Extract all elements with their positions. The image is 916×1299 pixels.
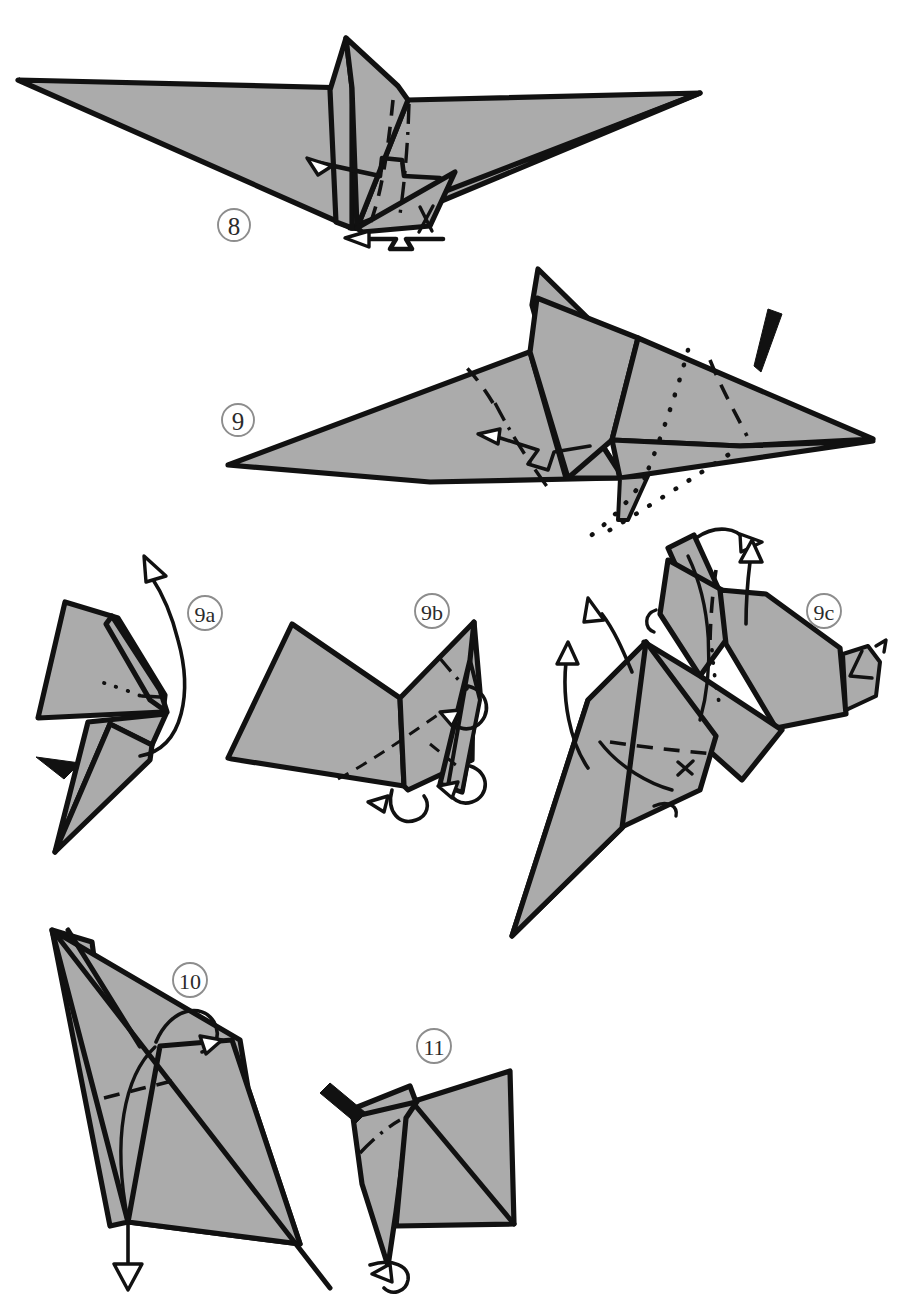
- step-11-label-text: 11: [423, 1035, 444, 1060]
- step-11-label: 11: [417, 1029, 451, 1063]
- origami-diagram-page: 8 9: [0, 0, 916, 1299]
- step-9a-crease-tick: [142, 696, 160, 697]
- step-9a-label: 9a: [188, 596, 222, 630]
- step-9c-label-text: 9c: [814, 600, 835, 625]
- step-9c-label: 9c: [807, 594, 841, 628]
- step-10-label: 10: [173, 963, 207, 997]
- step-8-label: 8: [218, 209, 250, 241]
- step-9b-label-text: 9b: [421, 600, 443, 625]
- step-9-label-text: 9: [232, 408, 245, 435]
- step-9a-label-text: 9a: [195, 602, 216, 627]
- origami-diagram-canvas: 8 9: [0, 0, 916, 1299]
- step-10-label-text: 10: [179, 969, 201, 994]
- step-8-label-text: 8: [228, 213, 241, 240]
- step-9b-label: 9b: [415, 594, 449, 628]
- step-9-label: 9: [222, 404, 254, 436]
